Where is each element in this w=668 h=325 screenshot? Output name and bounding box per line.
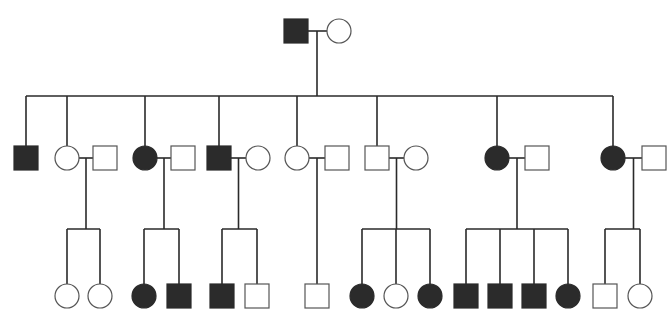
affected-male-square (522, 284, 546, 308)
affected-female-circle (350, 284, 374, 308)
affected-male-square (488, 284, 512, 308)
affected-male-square (284, 19, 308, 43)
unaffected-male-square (365, 146, 389, 170)
unaffected-female-circle (55, 146, 79, 170)
affected-male-square (454, 284, 478, 308)
affected-male-square (167, 284, 191, 308)
affected-female-circle (485, 146, 509, 170)
affected-female-circle (418, 284, 442, 308)
unaffected-male-square (325, 146, 349, 170)
affected-female-circle (133, 146, 157, 170)
affected-male-square (14, 146, 38, 170)
unaffected-female-circle (246, 146, 270, 170)
unaffected-male-square (305, 284, 329, 308)
unaffected-female-circle (404, 146, 428, 170)
unaffected-male-square (171, 146, 195, 170)
unaffected-female-circle (55, 284, 79, 308)
unaffected-male-square (525, 146, 549, 170)
unaffected-male-square (93, 146, 117, 170)
affected-female-circle (601, 146, 625, 170)
unaffected-female-circle (628, 284, 652, 308)
unaffected-female-circle (285, 146, 309, 170)
unaffected-female-circle (88, 284, 112, 308)
unaffected-male-square (642, 146, 666, 170)
unaffected-female-circle (384, 284, 408, 308)
unaffected-male-square (593, 284, 617, 308)
affected-female-circle (556, 284, 580, 308)
affected-male-square (210, 284, 234, 308)
pedigree-chart (0, 0, 668, 325)
affected-female-circle (132, 284, 156, 308)
affected-male-square (207, 146, 231, 170)
unaffected-male-square (245, 284, 269, 308)
unaffected-female-circle (327, 19, 351, 43)
